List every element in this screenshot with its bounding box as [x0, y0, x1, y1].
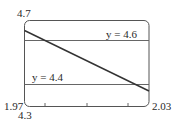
lower-line-annotation: y = 4.4 [32, 72, 63, 83]
upper-line-annotation: y = 4.6 [106, 29, 137, 40]
x-min-label: 1.97 [4, 101, 23, 112]
y-max-label: 4.7 [17, 8, 31, 19]
x-ticks [45, 103, 128, 106]
x-max-label: 2.03 [152, 101, 171, 112]
